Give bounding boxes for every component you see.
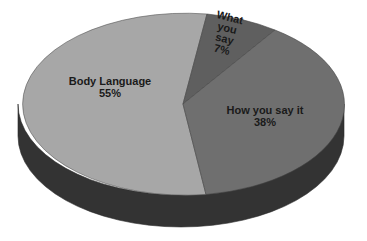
label-how-you-say-it-value: 38% [215, 116, 315, 128]
label-body-language-value: 55% [60, 87, 160, 99]
label-body-language-name: Body Language [60, 75, 160, 87]
label-how-you-say-it: How you say it 38% [215, 104, 315, 128]
pie-chart: Body Language 55% How you say it 38% Wha… [0, 0, 367, 241]
label-how-you-say-it-name: How you say it [215, 104, 315, 116]
label-body-language: Body Language 55% [60, 75, 160, 99]
